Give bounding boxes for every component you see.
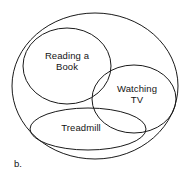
figure-caption: b.	[14, 158, 22, 169]
venn-diagram-canvas	[0, 0, 190, 182]
watching-tv-ellipse	[92, 65, 176, 133]
venn-diagram-figure: Reading a Book Watching TV Treadmill b.	[0, 0, 190, 182]
treadmill-ellipse	[30, 108, 146, 150]
reading-a-book-ellipse	[23, 28, 111, 104]
